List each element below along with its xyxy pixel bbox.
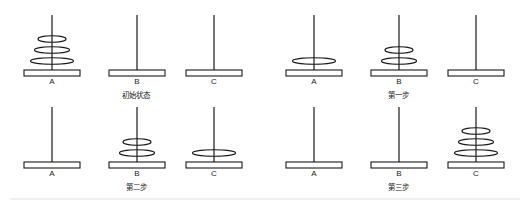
- peg-base: [286, 70, 342, 76]
- peg-base: [24, 70, 80, 76]
- diagram-canvas: ABC初始状态ABC第一步ABC第二步ABC第三步: [0, 0, 528, 202]
- panel-caption: 第二步: [126, 182, 148, 192]
- peg-a: A: [24, 15, 80, 86]
- peg-base: [24, 162, 80, 168]
- peg-base: [371, 162, 427, 168]
- peg-base: [448, 70, 504, 76]
- panel-caption: 第一步: [388, 90, 410, 100]
- peg-c: C: [186, 15, 242, 86]
- panels-layer: ABC初始状态ABC第一步ABC第二步ABC第三步: [24, 15, 504, 192]
- peg-c: C: [186, 107, 242, 178]
- peg-label: B: [134, 169, 139, 178]
- panel-step1: ABC第一步: [286, 15, 504, 100]
- peg-label: C: [473, 77, 479, 86]
- panel-step3: ABC第三步: [286, 107, 504, 192]
- peg-label: A: [49, 77, 55, 86]
- peg-b: B: [371, 107, 427, 178]
- hanoi-diagram: ABC初始状态ABC第一步ABC第二步ABC第三步: [0, 0, 528, 202]
- peg-b: B: [109, 107, 165, 178]
- peg-b: B: [371, 15, 427, 86]
- peg-b: B: [109, 15, 165, 86]
- panel-initial: ABC初始状态: [24, 15, 242, 100]
- peg-c: C: [448, 15, 504, 86]
- peg-base: [109, 70, 165, 76]
- peg-label: B: [134, 77, 139, 86]
- peg-a: A: [286, 15, 342, 86]
- peg-base: [371, 70, 427, 76]
- panel-caption: 第三步: [388, 182, 410, 192]
- peg-label: C: [473, 169, 479, 178]
- peg-label: C: [211, 169, 217, 178]
- peg-base: [186, 70, 242, 76]
- peg-a: A: [24, 107, 80, 178]
- peg-a: A: [286, 107, 342, 178]
- peg-label: B: [396, 169, 401, 178]
- peg-base: [186, 162, 242, 168]
- peg-label: B: [396, 77, 401, 86]
- peg-label: A: [311, 169, 317, 178]
- peg-label: A: [49, 169, 55, 178]
- peg-base: [109, 162, 165, 168]
- peg-base: [286, 162, 342, 168]
- peg-base: [448, 162, 504, 168]
- peg-c: C: [448, 107, 504, 178]
- panel-caption: 初始状态: [122, 90, 151, 100]
- panel-step2: ABC第二步: [24, 107, 242, 192]
- peg-label: C: [211, 77, 217, 86]
- peg-label: A: [311, 77, 317, 86]
